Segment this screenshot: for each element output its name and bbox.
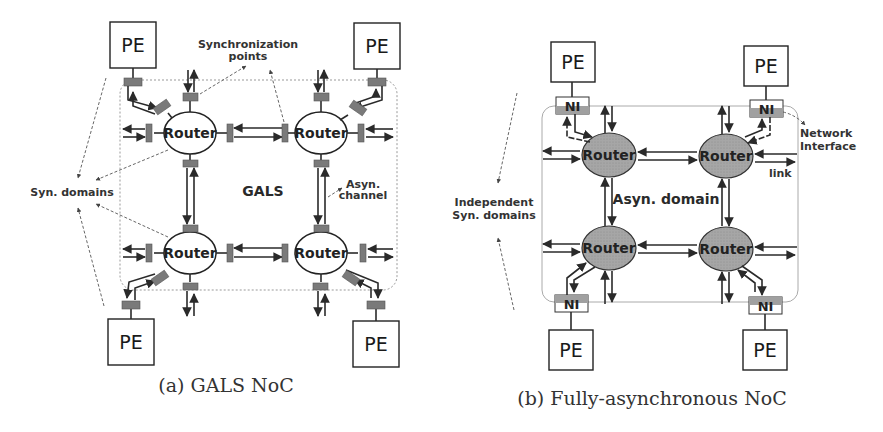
- sync-point: [124, 78, 142, 86]
- router-a-top-right: Router: [294, 112, 348, 154]
- noc-comparison-figure: PE PE PE PE Router Router: [0, 0, 883, 432]
- sync-point: [368, 78, 386, 86]
- svg-text:Interface: Interface: [800, 140, 856, 153]
- sync-point: [122, 301, 140, 309]
- ni-bottom-right: NI: [749, 297, 782, 314]
- svg-text:PE: PE: [364, 333, 387, 355]
- pe-box-b-bottom-right: PE: [743, 330, 787, 370]
- pe-box-top-left: PE: [110, 22, 156, 68]
- svg-text:PE: PE: [753, 339, 776, 361]
- annotation-network-interface: Network Interface: [783, 112, 856, 153]
- svg-text:Router: Router: [699, 241, 753, 257]
- svg-text:NI: NI: [758, 299, 774, 314]
- pe-box-top-right: PE: [354, 23, 400, 69]
- router-b-bottom-left: Router: [582, 226, 636, 270]
- svg-text:Router: Router: [699, 148, 753, 164]
- figure-a-gals-noc: PE PE PE PE Router Router: [30, 22, 400, 396]
- annotation-independent-syn-domains: Independent Syn. domains: [452, 93, 536, 310]
- pe-box-bottom-left: PE: [108, 319, 154, 365]
- sync-point: [367, 301, 385, 309]
- svg-text:Router: Router: [294, 125, 348, 141]
- svg-text:Router: Router: [163, 125, 217, 141]
- pe-box-bottom-right: PE: [353, 321, 399, 367]
- annotation-link: link: [769, 167, 792, 180]
- svg-text:Router: Router: [582, 147, 636, 163]
- svg-text:Router: Router: [294, 245, 348, 261]
- async-domain-label: Asyn. domain: [613, 191, 720, 207]
- svg-text:PE: PE: [365, 35, 388, 57]
- ni-top-left: NI: [556, 97, 589, 114]
- svg-text:Independent: Independent: [455, 196, 534, 209]
- ni-top-right: NI: [750, 100, 783, 117]
- svg-text:PE: PE: [559, 339, 582, 361]
- pe-box-b-top-left: PE: [551, 42, 595, 82]
- annotation-syn-domains: Syn. domains: [30, 78, 168, 306]
- svg-text:NI: NI: [565, 99, 581, 114]
- svg-text:Syn. domains: Syn. domains: [30, 186, 114, 199]
- annotation-asyn-channel: Asyn. channel: [328, 178, 387, 202]
- caption-a: (a) GALS NoC: [158, 374, 293, 396]
- router-a-bottom-left: Router: [163, 232, 217, 274]
- gals-center-label: GALS: [242, 183, 283, 199]
- caption-b: (b) Fully-asynchronous NoC: [517, 387, 787, 409]
- svg-text:PE: PE: [754, 55, 777, 77]
- ni-bottom-left: NI: [555, 295, 588, 312]
- svg-text:Network: Network: [800, 127, 853, 140]
- svg-text:Router: Router: [163, 245, 217, 261]
- svg-text:points: points: [229, 50, 268, 63]
- svg-text:Router: Router: [582, 240, 636, 256]
- svg-text:PE: PE: [119, 331, 142, 353]
- svg-text:channel: channel: [339, 189, 388, 202]
- svg-text:Syn. domains: Syn. domains: [452, 209, 536, 222]
- svg-text:PE: PE: [561, 51, 584, 73]
- router-a-bottom-right: Router: [294, 232, 348, 274]
- svg-text:PE: PE: [121, 34, 144, 56]
- svg-text:NI: NI: [564, 297, 580, 312]
- svg-text:NI: NI: [759, 102, 775, 117]
- pe-box-b-top-right: PE: [744, 46, 788, 86]
- router-b-top-right: Router: [699, 134, 753, 178]
- figure-b-async-noc: PE PE PE PE NI NI NI: [452, 42, 856, 409]
- router-b-top-left: Router: [582, 133, 636, 177]
- router-b-bottom-right: Router: [699, 227, 753, 271]
- pe-box-b-bottom-left: PE: [549, 330, 593, 370]
